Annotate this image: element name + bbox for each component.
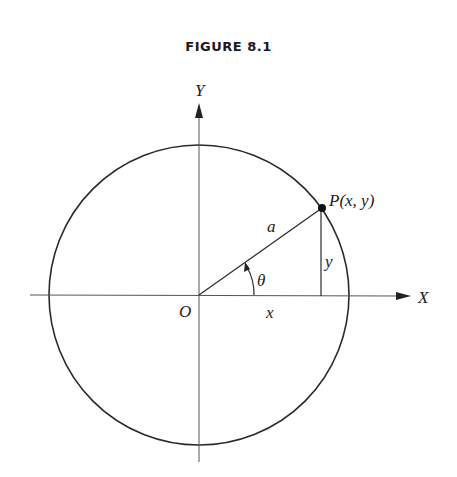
angle-arc bbox=[247, 267, 254, 295]
y-leg-label: y bbox=[323, 252, 333, 271]
x-axis bbox=[30, 295, 400, 296]
angle-label: θ bbox=[257, 271, 265, 290]
y-axis-label: Y bbox=[195, 81, 206, 100]
x-axis-label: X bbox=[417, 288, 429, 307]
point-p bbox=[318, 204, 326, 212]
y-axis-arrow-icon bbox=[195, 103, 203, 118]
point-label: P(x, y) bbox=[328, 191, 375, 210]
origin-label: O bbox=[179, 302, 191, 321]
unit-circle-diagram: Y X O P(x, y) a θ x y bbox=[0, 0, 457, 477]
x-axis-arrow-icon bbox=[396, 292, 411, 300]
x-leg-label: x bbox=[265, 303, 274, 322]
radius-label: a bbox=[267, 217, 276, 236]
